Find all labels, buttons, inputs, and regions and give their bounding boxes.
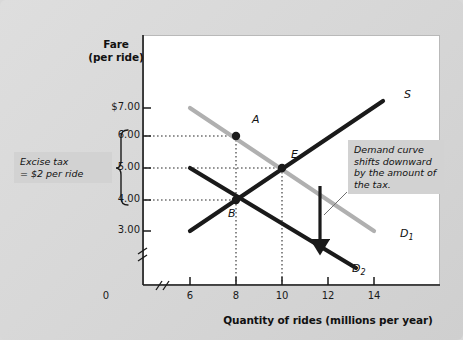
data-point-b — [232, 196, 240, 204]
supply-curve-s — [190, 101, 383, 231]
data-point-e — [278, 164, 286, 172]
y-axis-ticks — [143, 108, 151, 231]
demand-curve-d2 — [190, 168, 356, 268]
excise-tax-brace — [116, 130, 128, 205]
chart-vector-overlay — [0, 0, 463, 340]
figure-panel: Fare (per ride) Quantity of rides (milli… — [0, 0, 463, 340]
data-point-a — [232, 132, 240, 140]
